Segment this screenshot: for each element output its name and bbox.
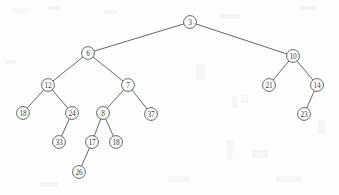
node-label: 17 bbox=[89, 138, 96, 147]
tree-edge bbox=[297, 61, 313, 80]
tree-node: 8 bbox=[97, 107, 110, 120]
tree-node: 33 bbox=[53, 136, 66, 149]
tree-node: 18 bbox=[17, 107, 30, 120]
tree-node: 26 bbox=[73, 166, 86, 179]
node-label: 23 bbox=[301, 110, 308, 119]
tree-edge bbox=[94, 119, 100, 136]
node-label: 18 bbox=[113, 138, 120, 147]
tree-node: 14 bbox=[311, 79, 324, 92]
tree-node: 18 bbox=[110, 136, 123, 149]
node-label: 12 bbox=[45, 81, 52, 90]
tree-edge bbox=[93, 57, 123, 81]
tree-node: 6 bbox=[82, 47, 95, 60]
tree-edge bbox=[94, 24, 184, 51]
tree-edge bbox=[106, 119, 114, 136]
node-layer: 3610127211418248372333171826 bbox=[17, 16, 324, 179]
edge-layer bbox=[27, 24, 314, 166]
tree-edge bbox=[107, 90, 123, 108]
node-label: 10 bbox=[290, 52, 297, 61]
node-label: 8 bbox=[101, 109, 105, 118]
tree-node: 10 bbox=[287, 50, 300, 63]
tree-node: 12 bbox=[42, 79, 55, 92]
node-label: 14 bbox=[314, 81, 321, 90]
tree-canvas: 3610127211418248372333171826 bbox=[0, 0, 339, 195]
node-label: 37 bbox=[148, 110, 155, 119]
tree-node: 17 bbox=[86, 136, 99, 149]
node-label: 6 bbox=[86, 49, 90, 58]
tree-edge bbox=[82, 148, 90, 166]
node-label: 3 bbox=[188, 18, 192, 27]
binary-tree-diagram: 3610127211418248372333171826 bbox=[0, 0, 339, 195]
node-label: 24 bbox=[69, 109, 76, 118]
tree-edge bbox=[52, 90, 68, 108]
tree-node: 24 bbox=[66, 107, 79, 120]
node-label: 33 bbox=[56, 138, 63, 147]
tree-edge bbox=[62, 119, 70, 136]
node-label: 26 bbox=[76, 168, 83, 177]
tree-node: 7 bbox=[122, 79, 135, 92]
node-label: 21 bbox=[266, 81, 273, 90]
tree-edge bbox=[132, 90, 147, 109]
tree-node: 37 bbox=[145, 108, 158, 121]
tree-node: 21 bbox=[263, 79, 276, 92]
tree-node: 23 bbox=[298, 108, 311, 121]
node-label: 18 bbox=[20, 109, 27, 118]
tree-edge bbox=[27, 90, 43, 108]
tree-node: 3 bbox=[184, 16, 197, 29]
node-label: 7 bbox=[126, 81, 130, 90]
tree-edge bbox=[273, 61, 289, 80]
tree-edge bbox=[196, 24, 287, 54]
tree-edge bbox=[53, 57, 83, 81]
tree-edge bbox=[307, 91, 315, 108]
